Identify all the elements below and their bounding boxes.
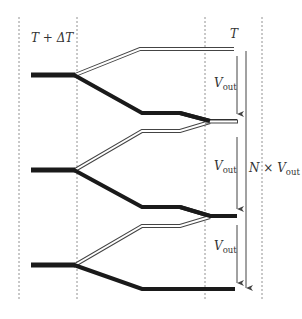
stage-1-dark-merge <box>180 113 210 121</box>
stage-1-dark-branch <box>74 75 237 121</box>
stage-3-dark-branch <box>74 265 235 289</box>
dashed-guides <box>19 17 262 300</box>
n-v-out-label: N × Vout <box>248 161 300 177</box>
cold-temperature-label: T <box>230 27 239 41</box>
stage-2 <box>31 113 238 216</box>
voltage-arrows <box>237 51 246 288</box>
stage-2-light-branch-outline <box>75 122 210 170</box>
stage-1-light-branch-outline <box>75 49 234 75</box>
v-out-label-3: Vout <box>214 239 237 255</box>
thermoelectric-cascade-diagram: T + ΔT T Vout Vout Vout N × Vout <box>0 0 302 319</box>
hot-temperature-label: T + ΔT <box>31 31 74 45</box>
stage-2-dark-branch <box>74 170 237 216</box>
stage-3-light-branch-outline <box>75 217 210 265</box>
junction-2-output <box>180 207 237 216</box>
v-out-label-1: Vout <box>214 76 237 92</box>
stage-1-light-branch-fill <box>75 49 234 75</box>
stage-3 <box>31 207 237 289</box>
stage-1 <box>31 49 237 121</box>
v-out-label-2: Vout <box>214 159 237 175</box>
